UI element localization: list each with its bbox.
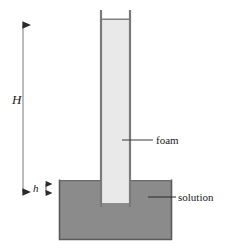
foam-column (102, 19, 130, 203)
solution-label: solution (178, 192, 213, 203)
dimension-h-label: h (33, 183, 39, 194)
foam-label: foam (156, 135, 179, 146)
foam-column-diagram: H h foam solution (0, 0, 230, 248)
dimension-H-label: H (12, 93, 21, 106)
diagram-canvas (0, 0, 230, 248)
foam-fill (102, 19, 130, 203)
